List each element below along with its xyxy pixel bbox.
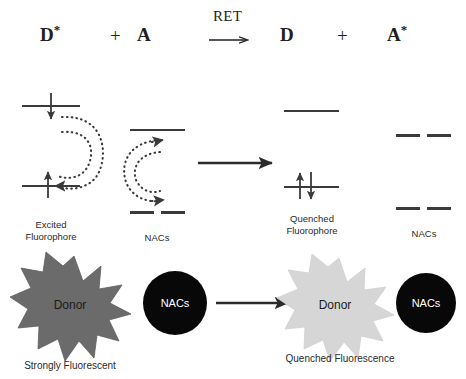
arrow-overlay <box>0 0 466 379</box>
donor-quenched-label: Donor <box>295 298 375 312</box>
donor-quenched-caption: Quenched Fluorescence <box>272 353 408 364</box>
equation-donor-excited-star: * <box>54 22 61 37</box>
nacs-left-lower-level <box>130 211 185 214</box>
nacs-right-label: NACs <box>395 228 453 240</box>
excited-fluorophore-label: Excited Fluorophore <box>11 219 91 243</box>
ret-mechanism-figure: D* + A RET D + A* <box>0 0 466 379</box>
equation-acceptor-excited-symbol: A <box>387 24 401 45</box>
equation-acceptor-excited-star: * <box>401 22 408 37</box>
excited-fluorophore-upper-level <box>22 105 80 107</box>
equation-plus-right: + <box>337 25 348 47</box>
equation-acceptor: A <box>137 24 151 46</box>
nacs-left-label: NACs <box>128 232 186 244</box>
excited-fluorophore-dotted-transfer-curve <box>56 117 103 189</box>
equation-plus-left: + <box>110 25 121 47</box>
equation-donor-excited-symbol: D <box>40 24 54 45</box>
nacs-dotted-transfer-curve <box>124 140 163 201</box>
excited-fluorophore-lower-level <box>22 185 80 187</box>
equation-donor-excited: D* <box>40 24 60 46</box>
nacs-left-upper-level <box>130 129 185 131</box>
equation-acceptor-excited: A* <box>387 24 407 46</box>
nacs-right-circle-label: NACs <box>396 297 456 309</box>
quenched-fluorophore-lower-level <box>284 186 339 188</box>
quenched-fluorophore-upper-level <box>284 110 339 112</box>
nacs-left-circle-label: NACs <box>143 297 207 309</box>
equation-donor-ground: D <box>280 24 294 46</box>
equation-ret-label: RET <box>213 8 242 25</box>
donor-bright-caption: Strongly Fluorescent <box>6 360 134 371</box>
quenched-fluorophore-label: Quenched Fluorophore <box>272 213 352 237</box>
nacs-right-lower-level <box>396 207 451 210</box>
nacs-right-upper-level <box>396 134 451 137</box>
donor-bright-label: Donor <box>30 298 110 312</box>
